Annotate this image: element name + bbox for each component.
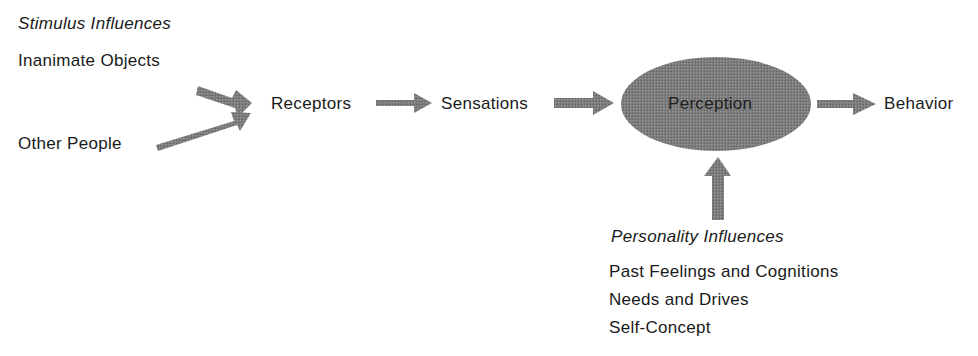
personality-item-self-concept: Self-Concept — [609, 318, 711, 338]
personality-item-needs-drives: Needs and Drives — [609, 290, 749, 310]
arrow-perception-to-behavior — [817, 93, 876, 115]
arrow-sensations-to-perception — [554, 91, 614, 115]
personality-item-past-feelings: Past Feelings and Cognitions — [609, 262, 839, 282]
stimulus-influences-heading: Stimulus Influences — [18, 14, 171, 34]
stimulus-item-other-people: Other People — [18, 134, 122, 154]
behavior-label: Behavior — [884, 94, 954, 114]
arrow-inanimate-to-receptors — [196, 86, 252, 117]
receptors-label: Receptors — [271, 94, 351, 114]
stimulus-item-inanimate-objects: Inanimate Objects — [18, 51, 160, 71]
personality-influences-heading: Personality Influences — [611, 227, 784, 247]
perception-label: Perception — [668, 94, 752, 114]
sensations-label: Sensations — [441, 94, 528, 114]
arrow-receptors-to-sensations — [376, 93, 432, 113]
arrow-personality-to-perception — [704, 157, 731, 220]
arrow-people-to-receptors — [156, 112, 251, 151]
